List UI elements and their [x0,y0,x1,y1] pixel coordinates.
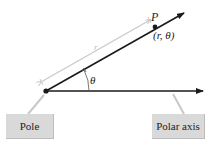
coordinate-label: (r, θ) [153,29,174,41]
pole-point [43,88,48,93]
radius-label: r [94,42,98,52]
axis-leader-line [173,94,184,114]
ray-line [46,13,184,91]
polar-axis-label-box: Polar axis [152,114,205,139]
angle-label: θ [90,74,95,86]
point-label: P [151,10,158,25]
pole-label-box: Pole [6,114,54,139]
polar-axis-label: Polar axis [156,120,200,132]
pole-leader-line [28,95,44,114]
dimension-tick-start [40,79,43,85]
pole-label: Pole [20,120,40,132]
angle-arc [84,70,89,91]
